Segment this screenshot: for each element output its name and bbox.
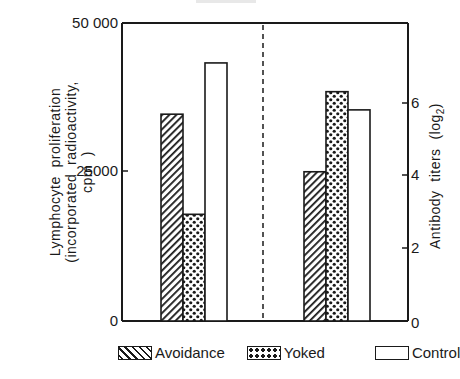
left-tick-label-0: 0 — [110, 312, 118, 329]
left-y-title-line-2: (incorporated radioactivity, — [63, 81, 79, 263]
bar-right-yoked — [326, 92, 348, 321]
legend-label-control: Control — [412, 344, 460, 361]
bar-left-avoidance — [161, 114, 183, 321]
right-y-title-text: Antibody titers (log2) — [427, 103, 446, 249]
legend-label-avoidance: Avoidance — [155, 344, 225, 361]
dots-swatch-icon — [247, 346, 281, 360]
plain-swatch-icon — [375, 346, 409, 360]
bar-left-control — [205, 63, 227, 321]
right-axis-ticks: 6 4 2 0 — [402, 94, 419, 331]
right-y-title-main: Antibody titers (log — [427, 114, 443, 249]
legend: Avoidance Yoked Control — [118, 344, 460, 361]
right-y-axis-title: Antibody titers (log2) — [427, 103, 446, 249]
legend-item-avoidance: Avoidance — [118, 344, 225, 361]
hatch-swatch-icon — [118, 346, 152, 360]
bar-left-yoked — [183, 214, 205, 321]
legend-label-yoked: Yoked — [284, 344, 325, 361]
right-y-title-close: ) — [427, 103, 443, 108]
bars — [161, 63, 370, 321]
right-tick-label-2: 2 — [411, 239, 419, 256]
right-tick-label-4: 4 — [411, 166, 419, 183]
legend-item-control: Control — [347, 344, 460, 361]
left-y-axis-title: Lymphocyte proliferation (incorporated r… — [47, 81, 95, 263]
right-tick-label-0: 0 — [411, 314, 419, 331]
left-y-title-line-3: cpm ) — [79, 151, 95, 193]
left-y-title-line-1: Lymphocyte proliferation — [47, 88, 63, 256]
left-tick-label-50000: 50 000 — [72, 14, 118, 31]
bar-right-avoidance — [304, 172, 326, 321]
bar-right-control — [348, 110, 370, 321]
right-tick-label-6: 6 — [411, 94, 419, 111]
legend-item-yoked: Yoked — [247, 344, 325, 361]
